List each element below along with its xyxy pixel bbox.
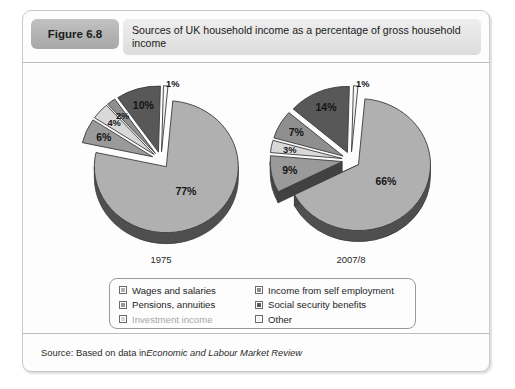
legend-swatch-icon <box>119 315 127 323</box>
legend-item-social-security-benefits: Social security benefits <box>255 298 394 313</box>
figure-title-bar: Sources of UK household income as a perc… <box>123 19 481 55</box>
legend-swatch-icon <box>255 286 263 294</box>
pie-year-label-1975: 1975 <box>61 254 261 265</box>
pie-svg-2007-8: 66%9%3%7%14%1% <box>251 68 451 258</box>
legend-swatch-icon <box>255 315 263 323</box>
legend-label: Income from self employment <box>268 285 394 296</box>
figure-screenshot: Figure 6.8 Sources of UK household incom… <box>0 0 515 389</box>
legend-label: Investment income <box>132 314 213 325</box>
legend-item-wages-and-salaries: Wages and salaries <box>119 283 255 298</box>
pie-slice-label: 3% <box>283 145 297 155</box>
pie-slice-label: 1% <box>356 79 370 89</box>
pie-slice-label: 77% <box>175 185 197 197</box>
legend-label: Social security benefits <box>268 299 366 310</box>
pie-slice-label: 10% <box>133 99 155 111</box>
charts-row: 77%6%4%2%10%1% 1975 66%9%3%7%14%1% 2007/… <box>23 64 489 269</box>
pie-slice-label: 14% <box>316 101 338 113</box>
legend-label: Pensions, annuities <box>132 299 215 310</box>
pie-slice-label: 1% <box>166 79 180 89</box>
figure-source: Source: Based on data in Economic and La… <box>23 333 489 371</box>
figure-body: 77%6%4%2%10%1% 1975 66%9%3%7%14%1% 2007/… <box>23 64 489 334</box>
legend-column-1: Wages and salaries Pensions, annuities I… <box>119 283 255 327</box>
legend-swatch-icon <box>119 301 127 309</box>
legend-label: Other <box>268 314 292 325</box>
pie-chart-2007-8: 66%9%3%7%14%1% 2007/8 <box>251 68 451 268</box>
source-publication: Economic and Labour Market Review <box>146 347 302 358</box>
legend-label: Wages and salaries <box>132 285 216 296</box>
legend-item-other: Other <box>255 312 394 327</box>
pie-chart-1975: 77%6%4%2%10%1% 1975 <box>61 68 261 268</box>
figure-number-badge: Figure 6.8 <box>31 19 119 49</box>
legend-item-income-from-self-employment: Income from self employment <box>255 283 394 298</box>
pie-slice-label: 6% <box>96 131 112 143</box>
figure-number-label: Figure 6.8 <box>48 28 102 40</box>
legend-swatch-icon <box>119 286 127 294</box>
pie-year-label-2007-8: 2007/8 <box>251 254 451 265</box>
figure-header: Figure 6.8 Sources of UK household incom… <box>23 11 489 63</box>
legend: Wages and salaries Pensions, annuities I… <box>109 278 416 329</box>
legend-swatch-icon <box>255 301 263 309</box>
figure-title: Sources of UK household income as a perc… <box>132 24 472 50</box>
legend-item-investment-income: Investment income <box>119 312 255 327</box>
pie-slice-label: 9% <box>282 164 298 176</box>
pie-slice-label: 66% <box>375 175 397 187</box>
source-prefix: Source: Based on data in <box>41 347 146 358</box>
figure-card: Figure 6.8 Sources of UK household incom… <box>22 10 490 372</box>
pie-slice-label: 7% <box>289 126 305 138</box>
legend-column-2: Income from self employment Social secur… <box>255 283 394 327</box>
pie-svg-1975: 77%6%4%2%10%1% <box>61 68 261 258</box>
legend-item-pensions-annuities: Pensions, annuities <box>119 298 255 313</box>
pie-slice-label: 2% <box>116 111 130 121</box>
